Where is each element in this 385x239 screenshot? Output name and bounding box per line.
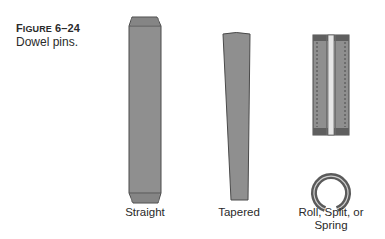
- dowel-pins-illustration: [0, 0, 385, 239]
- roll-pin-end-view: [314, 176, 348, 209]
- roll-pin-label: Roll, Split, or Spring: [291, 206, 371, 232]
- straight-pin-body: [129, 17, 161, 203]
- roll-pin: [313, 35, 349, 135]
- straight-pin-bottom-chamfer: [131, 194, 159, 202]
- tapered-pin-body: [223, 33, 250, 201]
- tapered-pin-label: Tapered: [209, 206, 269, 219]
- straight-pin: [129, 17, 161, 203]
- straight-pin-top-chamfer: [131, 18, 159, 26]
- straight-pin-label: Straight: [115, 206, 175, 219]
- roll-pin-label-line1: Roll, Split, or: [291, 206, 371, 219]
- roll-pin-slot: [328, 35, 334, 135]
- tapered-pin: [223, 33, 250, 201]
- roll-pin-label-line2: Spring: [291, 219, 371, 232]
